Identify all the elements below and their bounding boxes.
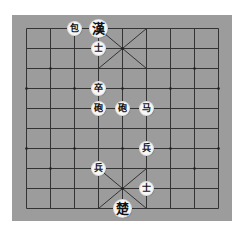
piece-red-soldier-1[interactable]: 兵 xyxy=(140,142,153,155)
piece-black-soldier[interactable]: 卒 xyxy=(92,82,105,95)
piece-red-advisor[interactable]: 士 xyxy=(140,182,153,195)
piece-black-king[interactable]: 漢 xyxy=(90,20,107,37)
piece-red-king[interactable]: 楚 xyxy=(114,200,131,217)
piece-cannon-1[interactable]: 砲 xyxy=(92,102,105,115)
piece-black-cannon[interactable]: 包 xyxy=(68,22,81,35)
piece-black-advisor[interactable]: 士 xyxy=(92,42,105,55)
piece-horse[interactable]: 马 xyxy=(140,102,153,115)
board-grid xyxy=(12,15,232,221)
piece-red-soldier-2[interactable]: 兵 xyxy=(92,162,105,175)
xiangqi-board[interactable] xyxy=(12,15,232,221)
piece-cannon-2[interactable]: 砲 xyxy=(116,102,129,115)
